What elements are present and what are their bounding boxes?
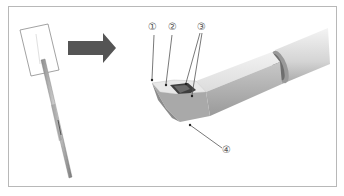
- detail-box: [20, 24, 59, 76]
- tip-closeup: [151, 28, 330, 148]
- overview-instrument: [20, 24, 72, 178]
- callout-label-2: ②: [168, 22, 177, 32]
- arrow-right-icon: [68, 33, 116, 63]
- callout-label-1: ①: [148, 22, 157, 32]
- callout-label-4: ④: [222, 145, 231, 155]
- callout-label-3: ③: [197, 22, 206, 32]
